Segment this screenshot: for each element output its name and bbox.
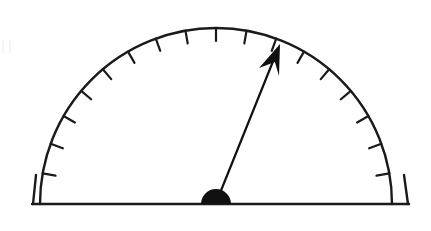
- tick-mark-70: [156, 39, 160, 51]
- baseline-right-endcap: [404, 175, 408, 204]
- tick-mark-group: [43, 28, 390, 176]
- tick-mark-140: [341, 91, 351, 99]
- pointer-arrow[interactable]: [216, 44, 280, 203]
- tick-mark-120: [298, 52, 305, 63]
- tick-mark-30: [64, 116, 75, 123]
- tick-mark-10: [43, 173, 56, 175]
- tick-mark-50: [103, 69, 111, 79]
- gauge-drawing-canvas: [0, 0, 431, 231]
- tick-mark-160: [369, 144, 381, 148]
- baseline-left-endcap: [33, 175, 36, 204]
- protractor-gauge-figure: 68.6 degrees 0 180: [0, 0, 431, 231]
- tick-mark-40: [81, 91, 91, 99]
- tick-mark-60: [128, 52, 135, 63]
- tick-mark-110: [272, 39, 276, 51]
- pointer-shaft: [216, 61, 273, 203]
- tick-mark-20: [51, 144, 63, 148]
- tick-mark-100: [244, 31, 246, 44]
- scan-artifact-marks: [3, 40, 10, 53]
- protractor-arc: [40, 28, 392, 204]
- tick-mark-150: [357, 116, 368, 123]
- pivot-hub[interactable]: [201, 189, 231, 204]
- tick-mark-80: [185, 31, 187, 44]
- tick-mark-130: [321, 69, 329, 79]
- tick-mark-170: [377, 173, 390, 175]
